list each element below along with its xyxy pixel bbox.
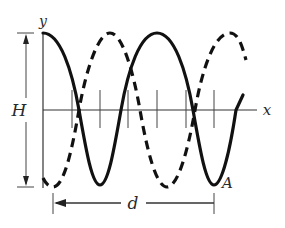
h-label: H [11,100,28,120]
d-label: d [128,193,139,213]
arrow-left-icon [54,199,66,207]
x-axis-label: x [263,101,272,119]
arrow-up-icon [23,34,29,44]
solid-wave [43,33,243,185]
y-axis-label: y [38,13,48,29]
arrow-down-icon [23,176,29,186]
wave-diagram: H y x A d [0,0,285,228]
point-a-label: A [220,174,233,192]
